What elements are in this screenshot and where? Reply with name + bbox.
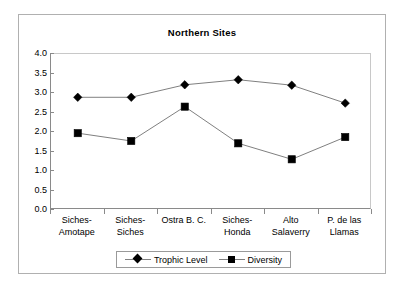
x-axis-tick-label: Siches-Amotape — [59, 215, 95, 238]
x-axis-tick-label: P. de lasLlamas — [327, 215, 361, 238]
data-point-marker — [342, 133, 349, 140]
y-axis-tick-mark — [50, 131, 54, 132]
x-axis-tick-label-line: Siches- — [115, 215, 145, 227]
legend-label: Diversity — [248, 255, 283, 265]
data-point-marker — [235, 140, 242, 147]
chart-legend: Trophic LevelDiversity — [116, 251, 291, 268]
y-axis-tick-label: 1.0 — [34, 165, 47, 175]
y-axis-tick-mark — [50, 92, 54, 93]
data-point-marker — [341, 99, 349, 107]
y-axis-tick-label: 3.5 — [34, 68, 47, 78]
x-axis-tick-label-line: Amotape — [59, 227, 95, 239]
data-point-marker — [181, 103, 188, 110]
y-axis-tick-label: 0.0 — [34, 204, 47, 214]
data-point-marker — [234, 76, 242, 84]
y-axis-tick-mark — [50, 112, 54, 113]
x-axis-tick-label-line: Ostra B. C. — [161, 215, 206, 227]
plot-series-svg — [51, 54, 372, 210]
x-axis-tick-mark — [318, 209, 319, 214]
diamond-marker-icon — [132, 254, 142, 264]
x-axis-tick-label: AltoSalaverry — [272, 215, 310, 238]
legend-entry[interactable]: Diversity — [219, 255, 283, 265]
data-point-marker — [288, 156, 295, 163]
y-axis-tick-label: 2.0 — [34, 126, 47, 136]
data-point-marker — [288, 81, 296, 89]
y-axis-tick-label: 3.0 — [34, 87, 47, 97]
data-point-marker — [128, 137, 135, 144]
x-axis-tick-labels: Siches-AmotapeSiches-SichesOstra B. C.Si… — [50, 213, 371, 253]
y-axis-tick-mark — [50, 53, 54, 54]
data-point-marker — [74, 93, 82, 101]
data-point-marker — [181, 81, 189, 89]
x-axis-tick-label-line: Honda — [222, 227, 252, 239]
x-axis-tick-mark — [157, 209, 158, 214]
x-axis-tick-label-line: Siches- — [222, 215, 252, 227]
chart-frame: Northern Sites 4.03.53.02.52.01.51.00.50… — [18, 14, 386, 274]
legend-line-sample — [125, 255, 151, 264]
y-axis-tick-mark — [50, 190, 54, 191]
chart-title: Northern Sites — [19, 27, 385, 38]
x-axis-tick-label-line: Siches — [115, 227, 145, 239]
plot-area — [50, 53, 371, 209]
y-axis-tick-labels: 4.03.53.02.52.01.51.00.50.0 — [19, 53, 47, 209]
x-axis-tick-mark — [104, 209, 105, 214]
x-axis-tick-label-line: Salaverry — [272, 227, 310, 239]
square-marker-icon — [228, 256, 235, 263]
y-axis-tick-label: 0.5 — [34, 185, 47, 195]
x-axis-tick-label-line: Alto — [272, 215, 310, 227]
x-axis-tick-label-line: Llamas — [327, 227, 361, 239]
x-axis-tick-label-line: Siches- — [59, 215, 95, 227]
x-axis-tick-mark — [211, 209, 212, 214]
series-line-diversity — [78, 107, 346, 160]
y-axis-tick-label: 1.5 — [34, 146, 47, 156]
y-axis-tick-mark — [50, 73, 54, 74]
y-axis-tick-label: 2.5 — [34, 107, 47, 117]
series-line-trophic-level — [78, 80, 346, 103]
y-axis-tick-mark — [50, 151, 54, 152]
x-axis-tick-label-line: P. de las — [327, 215, 361, 227]
y-axis-tick-label: 4.0 — [34, 48, 47, 58]
x-axis-tick-label: Siches-Siches — [115, 215, 145, 238]
legend-line-sample — [219, 255, 245, 264]
data-point-marker — [74, 130, 81, 137]
x-axis-tick-label: Siches-Honda — [222, 215, 252, 238]
data-point-marker — [127, 93, 135, 101]
legend-label: Trophic Level — [154, 255, 208, 265]
x-axis-tick-label: Ostra B. C. — [161, 215, 206, 227]
x-axis-tick-mark — [50, 209, 51, 214]
x-axis-tick-mark — [264, 209, 265, 214]
x-axis-tick-mark — [371, 209, 372, 214]
y-axis-tick-mark — [50, 170, 54, 171]
legend-entry[interactable]: Trophic Level — [125, 255, 208, 265]
